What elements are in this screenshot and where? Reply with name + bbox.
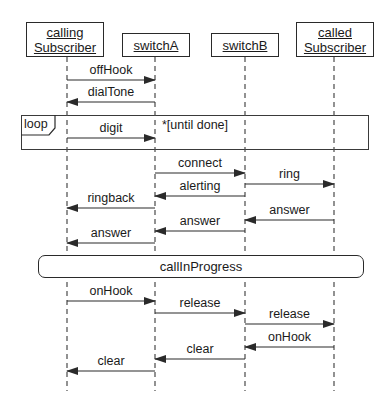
- participant-label-line1: calling: [47, 25, 84, 40]
- participant-label-line2: Subscriber: [304, 40, 366, 55]
- message-label-answer: answer: [91, 226, 131, 240]
- message-label-digit: digit: [100, 121, 123, 135]
- participant-switch-a: switchA: [122, 33, 190, 57]
- message-label-onhook: onHook: [268, 330, 311, 344]
- message-label-answer: answer: [269, 203, 309, 217]
- participant-calling-subscriber: calling Subscriber: [26, 22, 104, 57]
- message-label-ring: ring: [279, 167, 300, 181]
- message-label-answer: answer: [180, 214, 220, 228]
- participant-switch-b: switchB: [211, 33, 279, 57]
- participant-label: switchA: [134, 38, 179, 53]
- participant-called-subscriber: called Subscriber: [296, 22, 374, 57]
- message-label-onhook: onHook: [89, 284, 132, 298]
- state-call-in-progress: callInProgress: [38, 255, 364, 278]
- loop-operator-label: loop: [24, 117, 48, 131]
- message-label-release: release: [180, 296, 221, 310]
- message-label-alerting: alerting: [180, 179, 221, 193]
- participant-label-line2: Subscriber: [34, 40, 96, 55]
- message-label-clear: clear: [186, 342, 213, 356]
- message-label-clear: clear: [97, 354, 124, 368]
- loop-guard-condition: *[until done]: [162, 118, 228, 132]
- state-label: callInProgress: [160, 259, 242, 274]
- message-label-release: release: [269, 307, 310, 321]
- message-label-ringback: ringback: [87, 191, 134, 205]
- message-label-dialtone: dialTone: [88, 85, 135, 99]
- sequence-diagram: calling Subscriber switchA switchB calle…: [0, 0, 391, 412]
- participant-label-line1: called: [318, 25, 352, 40]
- participant-label: switchB: [223, 38, 268, 53]
- message-label-connect: connect: [178, 156, 222, 170]
- message-label-offhook: offHook: [90, 63, 133, 77]
